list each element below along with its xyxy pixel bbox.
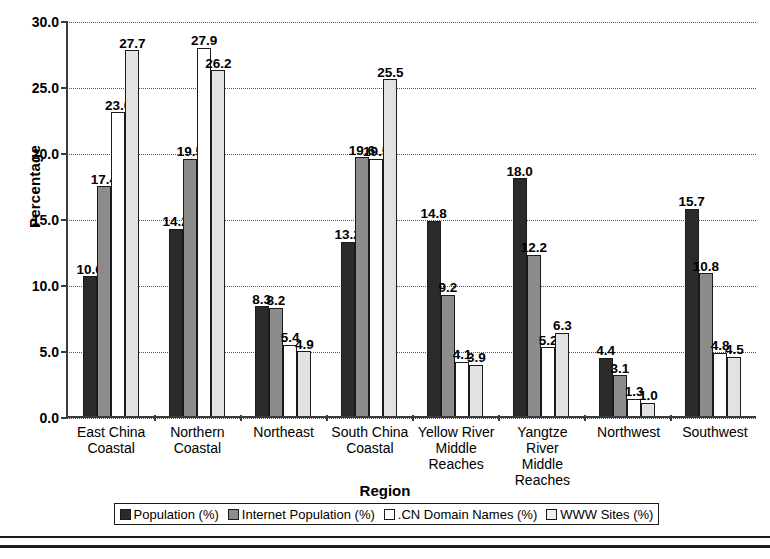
x-tick-mark <box>326 415 328 421</box>
bar[interactable]: 5.2 <box>541 347 555 416</box>
y-tick-label: 10.0 <box>32 278 59 294</box>
bar-value-label: 8.2 <box>267 294 286 308</box>
x-tick-label: South ChinaCoastal <box>327 424 413 488</box>
bar-value-label: 6.3 <box>553 319 572 333</box>
legend-swatch-icon <box>228 509 239 520</box>
bar[interactable]: 4.9 <box>297 351 311 416</box>
bar[interactable]: 3.9 <box>469 365 483 416</box>
y-tick-label: 30.0 <box>32 14 59 30</box>
bar[interactable]: 15.7 <box>685 209 699 416</box>
page-rule-top <box>0 536 770 538</box>
bar-value-label: 27.9 <box>191 34 217 48</box>
x-tick-mark <box>412 415 414 421</box>
legend-item[interactable]: WWW Sites (%) <box>546 507 653 522</box>
y-tick-label: 15.0 <box>32 212 59 228</box>
bar-value-label: 3.1 <box>611 362 630 376</box>
x-tick-mark <box>498 415 500 421</box>
chart-legend: Population (%)Internet Population (%).CN… <box>114 503 659 525</box>
x-tick-label: Southwest <box>672 424 758 488</box>
bar-group-inner: 14.89.24.13.9 <box>427 22 484 416</box>
bar-value-label: 4.4 <box>596 344 615 358</box>
bar-group: 14.219.527.926.2 <box>154 22 240 416</box>
bar[interactable]: 27.9 <box>197 48 211 416</box>
x-tick-mark <box>154 415 156 421</box>
y-tick-mark <box>61 351 68 353</box>
y-tick-label: 0.0 <box>40 410 59 426</box>
bar-group: 4.43.11.31.0 <box>584 22 670 416</box>
bar-value-label: 25.5 <box>377 66 403 80</box>
x-tick-label: NorthernCoastal <box>154 424 240 488</box>
bar[interactable]: 14.8 <box>427 221 441 416</box>
y-tick-mark <box>61 285 68 287</box>
legend-label: .CN Domain Names (%) <box>398 507 537 522</box>
bar-group: 8.38.25.44.9 <box>240 22 326 416</box>
legend-swatch-icon <box>546 509 557 520</box>
legend-label: WWW Sites (%) <box>560 507 653 522</box>
y-tick-mark <box>61 219 68 221</box>
legend-label: Internet Population (%) <box>242 507 375 522</box>
bar[interactable]: 19.5 <box>183 159 197 416</box>
bar-value-label: 1.0 <box>639 389 658 403</box>
bar-group-inner: 13.219.619.525.5 <box>341 22 398 416</box>
bar[interactable]: 6.3 <box>555 333 569 416</box>
bar[interactable]: 4.8 <box>713 353 727 416</box>
bar[interactable]: 4.5 <box>727 357 741 416</box>
bar[interactable]: 8.2 <box>269 308 283 416</box>
bar-value-label: 18.0 <box>507 165 533 179</box>
bar[interactable]: 4.1 <box>455 362 469 416</box>
bar-groups: 10.617.423.027.714.219.527.926.28.38.25.… <box>68 22 756 416</box>
y-axis-title: Percentage <box>26 117 43 257</box>
bar[interactable]: 5.4 <box>283 345 297 416</box>
legend-item[interactable]: .CN Domain Names (%) <box>384 507 537 522</box>
legend-label: Population (%) <box>134 507 219 522</box>
bar[interactable]: 26.2 <box>211 70 225 416</box>
bar[interactable]: 1.0 <box>641 403 655 416</box>
bar-group: 13.219.619.525.5 <box>326 22 412 416</box>
x-tick-label: Yellow RiverMiddleReaches <box>413 424 499 488</box>
bar-chart: Percentage 0.05.010.015.020.025.030.0 10… <box>0 0 770 559</box>
x-axis-tick-labels: East ChinaCoastalNorthernCoastalNortheas… <box>68 424 758 488</box>
bar[interactable]: 17.4 <box>97 186 111 416</box>
bar-group: 18.012.25.26.3 <box>498 22 584 416</box>
x-tick-mark <box>584 415 586 421</box>
bar[interactable]: 10.6 <box>83 276 97 416</box>
bar-group: 10.617.423.027.7 <box>68 22 154 416</box>
x-tick-label: East ChinaCoastal <box>68 424 154 488</box>
x-tick-mark <box>670 415 672 421</box>
legend-item[interactable]: Population (%) <box>120 507 219 522</box>
page-rule-bottom <box>0 545 770 548</box>
y-tick-mark <box>61 87 68 89</box>
y-tick-label: 25.0 <box>32 80 59 96</box>
bar-group-inner: 8.38.25.44.9 <box>255 22 312 416</box>
bar-value-label: 3.9 <box>467 351 486 365</box>
y-tick-label: 5.0 <box>40 344 59 360</box>
bar[interactable]: 25.5 <box>383 79 397 416</box>
x-tick-label: Northeast <box>241 424 327 488</box>
bar-value-label: 4.9 <box>295 338 314 352</box>
bar-value-label: 26.2 <box>205 57 231 71</box>
y-tick-label: 20.0 <box>32 146 59 162</box>
bar[interactable]: 18.0 <box>513 178 527 416</box>
x-axis-title: Region <box>0 482 770 499</box>
bar[interactable]: 19.5 <box>369 159 383 416</box>
bar[interactable]: 14.2 <box>169 229 183 416</box>
bar[interactable]: 23.0 <box>111 112 125 416</box>
bar-value-label: 14.8 <box>421 207 447 221</box>
bar[interactable]: 8.3 <box>255 306 269 416</box>
bar-group-inner: 15.710.84.84.5 <box>685 22 742 416</box>
bar-group: 14.89.24.13.9 <box>412 22 498 416</box>
bar-group-inner: 10.617.423.027.7 <box>83 22 140 416</box>
plot-area: 0.05.010.015.020.025.030.0 10.617.423.02… <box>66 22 756 418</box>
bar-value-label: 9.2 <box>439 281 458 295</box>
bar[interactable]: 13.2 <box>341 242 355 416</box>
bar-group: 15.710.84.84.5 <box>670 22 756 416</box>
legend-item[interactable]: Internet Population (%) <box>228 507 375 522</box>
bar[interactable]: 27.7 <box>125 50 139 416</box>
legend-swatch-icon <box>120 509 131 520</box>
x-tick-mark <box>240 415 242 421</box>
page-footer-fragment <box>0 549 770 559</box>
gridline <box>66 418 756 419</box>
bar[interactable]: 19.6 <box>355 157 369 416</box>
bar-value-label: 10.8 <box>693 260 719 274</box>
bar-value-label: 27.7 <box>119 37 145 51</box>
